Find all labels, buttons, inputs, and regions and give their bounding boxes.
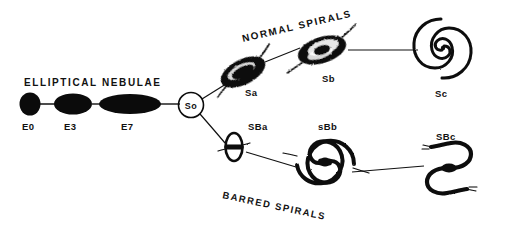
sb-arm-left: [286, 63, 304, 73]
sc-arm-b: [414, 19, 453, 68]
hubble-tuning-fork-figure: ELLIPTICAL NEBULAE NORMAL SPIRALS BARRED…: [0, 0, 516, 232]
galaxy-e0: [20, 93, 41, 116]
label-sbb: sBb: [318, 121, 337, 132]
label-sb: Sb: [322, 73, 335, 84]
galaxy-e7: [99, 94, 161, 114]
diagram-canvas: ELLIPTICAL NEBULAE NORMAL SPIRALS BARRED…: [0, 0, 516, 232]
sc-nucleus: [441, 46, 445, 50]
galaxy-e3: [54, 94, 92, 115]
sa-arm-left: [215, 86, 229, 97]
label-s0: So: [185, 101, 197, 111]
galaxy-sba: [218, 133, 250, 161]
label-sa: Sa: [245, 87, 258, 98]
label-sc: Sc: [435, 88, 447, 99]
label-sba: SBa: [248, 121, 268, 132]
sb-arm-right: [340, 24, 359, 37]
sbb-arm-tail-left: [283, 153, 297, 156]
sbb-nucleus: [320, 157, 330, 166]
sba-bar: [225, 144, 244, 149]
label-e7: E7: [121, 121, 133, 132]
connector-sa-sb: [265, 48, 300, 62]
galaxy-sbb: [283, 141, 369, 184]
connector-s0-sba: [200, 114, 225, 143]
sa-arm-right: [256, 44, 273, 58]
galaxy-sc: [414, 19, 471, 78]
heading-elliptical-nebulae: ELLIPTICAL NEBULAE: [24, 77, 162, 88]
galaxy-sbc: [422, 143, 477, 194]
label-e0: E0: [22, 121, 34, 132]
label-sbc: SBc: [436, 131, 456, 142]
sbc-bar: [441, 164, 457, 173]
heading-barred-spirals: BARRED SPIRALS: [222, 189, 327, 222]
label-e3: E3: [64, 121, 76, 132]
